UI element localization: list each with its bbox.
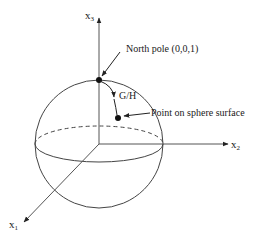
x1-label-sub: 1 xyxy=(15,224,19,232)
sphere-diagram xyxy=(0,0,263,242)
x2-label-sub: 2 xyxy=(237,144,241,152)
x1-axis-label: x1 xyxy=(9,219,18,232)
surface-point-dot xyxy=(115,115,121,121)
x1-axis xyxy=(24,144,99,222)
surface-point-label: Point on sphere surface xyxy=(151,108,245,118)
gh-transform-tail xyxy=(114,99,117,115)
equator-front xyxy=(35,144,163,162)
north-pole-label: North pole (0,0,1) xyxy=(126,44,198,54)
north-pole-dot xyxy=(96,77,102,83)
north-pole-pointer xyxy=(102,52,120,76)
x3-label-sub: 3 xyxy=(91,15,95,23)
gh-transform-arrow xyxy=(100,81,114,97)
x2-axis-label: x2 xyxy=(231,139,240,152)
x3-axis-label: x3 xyxy=(85,10,94,23)
gh-transform-label: G/H xyxy=(119,91,136,101)
surface-point-pointer xyxy=(124,113,150,116)
